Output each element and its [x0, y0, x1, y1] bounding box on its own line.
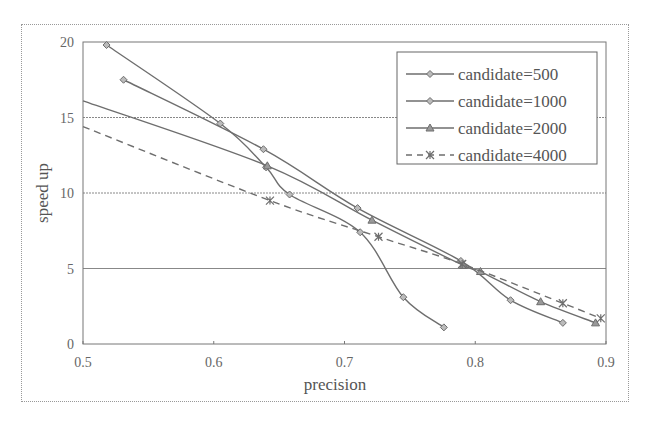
- x-tick-label: 0.6: [205, 355, 223, 370]
- x-tick-label: 0.7: [336, 355, 354, 370]
- legend-label: candidate=2000: [458, 119, 567, 138]
- line-chart: 05101520 0.50.60.70.80.9 precision speed…: [0, 0, 648, 424]
- y-tick-label: 15: [60, 111, 74, 126]
- series-candidate-500: [103, 42, 447, 331]
- x-axis-ticks: 0.50.60.70.80.9: [74, 341, 615, 370]
- x-tick-label: 0.5: [74, 355, 92, 370]
- diamond-marker: [507, 297, 514, 304]
- legend-label: candidate=500: [458, 65, 558, 84]
- legend-label: candidate=4000: [458, 146, 567, 165]
- y-tick-label: 20: [60, 35, 74, 50]
- y-tick-label: 0: [67, 337, 74, 352]
- x-tick-label: 0.8: [467, 355, 485, 370]
- star-marker: [559, 299, 567, 307]
- y-axis-ticks: 05101520: [60, 35, 74, 352]
- diamond-marker: [260, 146, 267, 153]
- x-axis-title: precision: [304, 375, 367, 394]
- star-marker: [597, 314, 605, 322]
- y-tick-label: 5: [67, 262, 74, 277]
- star-marker: [266, 197, 274, 205]
- legend-label: candidate=1000: [458, 92, 567, 111]
- triangle-marker: [537, 298, 545, 305]
- y-axis-title: speed up: [33, 163, 52, 223]
- legend: candidate=500candidate=1000candidate=200…: [397, 52, 597, 165]
- y-tick-label: 10: [60, 186, 74, 201]
- series-line: [107, 45, 444, 327]
- star-marker: [374, 233, 382, 241]
- diamond-marker: [120, 76, 127, 83]
- diamond-marker: [559, 319, 566, 326]
- x-tick-label: 0.9: [597, 355, 615, 370]
